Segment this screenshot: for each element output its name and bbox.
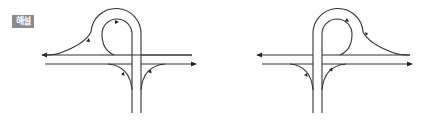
inner-loop	[102, 19, 132, 55]
vertical-road-right-edge	[45, 8, 141, 113]
interchange-diagrams	[0, 0, 425, 120]
right-interchange	[257, 8, 412, 113]
vertical-road-left-edge	[313, 8, 410, 113]
ramp-east-to-south	[108, 64, 132, 90]
left-direction-arrows	[86, 20, 152, 76]
left-interchange	[42, 8, 196, 113]
ramp-south-to-east	[322, 64, 346, 90]
ramp-south-to-east	[141, 64, 165, 90]
ramp-east-to-south	[290, 64, 313, 90]
inner-loop	[322, 19, 352, 55]
